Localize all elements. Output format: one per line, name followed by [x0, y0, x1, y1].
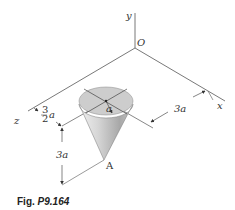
x-axis-label: x — [217, 100, 223, 111]
y-axis-label: y — [125, 10, 132, 21]
z-axis-label: z — [13, 115, 20, 126]
origin-label: O — [137, 37, 145, 48]
apex-label: A — [105, 160, 114, 171]
z-offset-variable: a — [49, 109, 55, 120]
x-offset-label: 3a — [174, 103, 186, 114]
caption-prefix: Fig. — [17, 196, 35, 207]
x-axis — [135, 48, 225, 101]
figure-caption: Fig. P9.164 — [17, 196, 69, 207]
cone — [79, 87, 133, 160]
cone-diagram: y O x z a A 3a 3 2 a 3a — [0, 0, 235, 210]
caption-number: P9.164 — [38, 196, 70, 207]
z-offset-denominator: 2 — [42, 113, 48, 124]
height-label: 3a — [56, 149, 68, 160]
radius-label: a — [106, 103, 112, 114]
